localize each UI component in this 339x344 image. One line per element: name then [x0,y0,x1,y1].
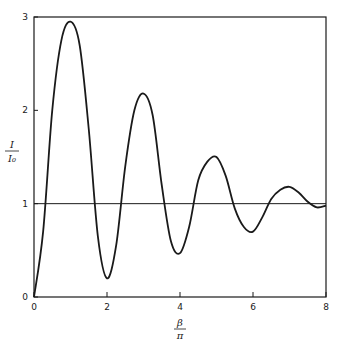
y-tick-label: 2 [22,105,28,115]
x-tick-label: 6 [250,302,256,312]
plot-frame [34,17,326,297]
y-axis-ticks: 0123 [22,12,38,302]
y-tick-label: 0 [22,292,28,302]
intensity-curve [34,22,326,297]
diffraction-intensity-chart: 0123 02468 I I₀ β π [0,0,339,344]
y-tick-label: 3 [22,12,28,22]
y-label-denominator: I₀ [7,153,16,164]
x-label-denominator: π [176,330,184,341]
x-tick-label: 2 [104,302,110,312]
y-axis-label: I I₀ [5,139,19,164]
x-tick-label: 8 [323,302,329,312]
x-label-numerator: β [176,317,183,328]
y-tick-label: 1 [22,199,28,209]
y-label-numerator: I [9,139,15,150]
x-axis-ticks: 02468 [31,292,329,312]
x-tick-label: 4 [177,302,183,312]
x-tick-label: 0 [31,302,37,312]
x-axis-label: β π [174,317,186,341]
